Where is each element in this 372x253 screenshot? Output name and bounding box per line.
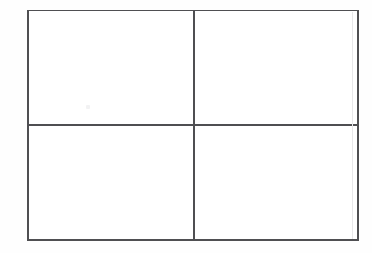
cell-top-right-label (196, 12, 356, 123)
cell-bottom-right-label (196, 127, 356, 238)
cell-top-left[interactable] (29, 12, 192, 123)
cell-top-left-label (29, 12, 192, 123)
cell-bottom-right[interactable] (196, 127, 356, 238)
cell-top-right[interactable] (196, 12, 356, 123)
grid-divider-vertical (193, 11, 195, 240)
page-canvas (0, 0, 372, 253)
cell-bottom-left-label (29, 127, 192, 238)
cell-bottom-left[interactable] (29, 127, 192, 238)
